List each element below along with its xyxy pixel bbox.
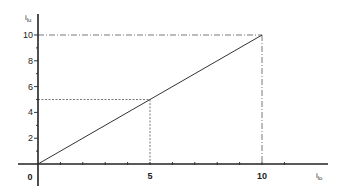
origin-label: 0 — [27, 172, 32, 182]
y-tick-label: 4 — [28, 107, 33, 117]
series — [38, 35, 262, 164]
y-tick-label: 10 — [23, 30, 33, 40]
x-tick-label: 10 — [257, 171, 267, 181]
y-tick-label: 2 — [28, 133, 33, 143]
x-tick-label: 5 — [147, 171, 152, 181]
y-axis-label: ilu — [25, 13, 31, 23]
series-line — [38, 35, 262, 164]
ticks: 510246810 — [23, 30, 284, 181]
chart: 510246810 0 ilu ilo — [0, 0, 348, 192]
x-axis-label: ilo — [316, 171, 323, 181]
y-tick-label: 8 — [28, 56, 33, 66]
y-tick-label: 6 — [28, 82, 33, 92]
